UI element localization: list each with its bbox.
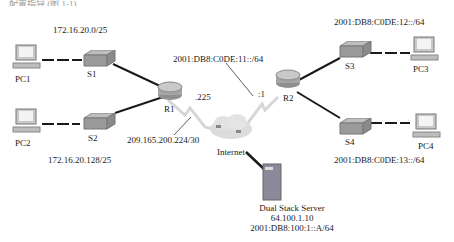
switch-icon (336, 41, 372, 59)
router-r1[interactable] (157, 80, 183, 106)
cloud-icon (208, 112, 254, 142)
internet-cloud[interactable] (208, 112, 254, 146)
switch-s1[interactable] (80, 50, 116, 72)
internet-label: Internet (217, 147, 245, 157)
lan1-network: 172.16.20.0/25 (53, 25, 107, 35)
s3-label: S3 (345, 61, 355, 71)
switch-icon (80, 113, 116, 131)
pc-icon (412, 113, 442, 139)
r1-label: R1 (164, 104, 175, 114)
router-icon (157, 80, 183, 102)
pc3-label: PC3 (413, 64, 429, 74)
pc4[interactable] (412, 113, 442, 143)
server-ipv4: 64.100.1.10 (222, 213, 362, 223)
s1-label: S1 (87, 69, 97, 79)
router-r2[interactable] (275, 68, 301, 94)
pc4-label: PC4 (418, 141, 434, 151)
switch-icon (80, 50, 116, 68)
pc1[interactable] (12, 44, 42, 74)
lan4-network: 2001:DB8:C0DE:13::/64 (334, 155, 425, 165)
s2-label: S2 (88, 133, 98, 143)
wan-ipv4-network: 209.165.200.224/30 (127, 135, 199, 145)
server-ipv6: 2001:DB8:100:1::A/64 (222, 223, 362, 233)
pc2-label: PC2 (15, 138, 31, 148)
lan2-network: 172.16.20.128/25 (48, 155, 111, 165)
dual-stack-server[interactable] (262, 163, 282, 205)
r2-wan-host: :1 (258, 89, 265, 99)
server-icon (262, 163, 282, 201)
server-name: Dual Stack Server (222, 203, 362, 213)
pc3[interactable] (410, 36, 440, 66)
network-topology-diagram: …配置指导 (图 1-1) PC1 (0, 0, 454, 242)
pc-icon (12, 44, 42, 70)
switch-icon (336, 118, 372, 136)
r2-label: R2 (283, 93, 294, 103)
switch-s3[interactable] (336, 41, 372, 63)
router-icon (275, 68, 301, 90)
pc1-label: PC1 (15, 74, 31, 84)
s4-label: S4 (345, 137, 355, 147)
lan3-network: 2001:DB8:C0DE:12::/64 (334, 17, 425, 27)
wan-ipv6-network: 2001:DB8:C0DE:11::/64 (173, 54, 263, 64)
r1-wan-host: .225 (195, 92, 211, 102)
pc-icon (12, 108, 42, 134)
pc-icon (410, 36, 440, 62)
pc2[interactable] (12, 108, 42, 138)
switch-s2[interactable] (80, 113, 116, 135)
